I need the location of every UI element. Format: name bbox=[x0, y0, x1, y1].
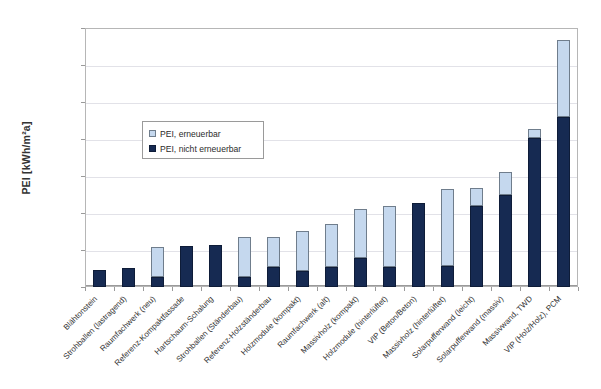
x-axis-label: Massivwand, TWD bbox=[480, 294, 533, 347]
legend-label-nicht-erneuerbar: PEI, nicht erneuerbar bbox=[160, 144, 241, 154]
x-axis-labels: BlähtonsteinStrohballen (lastragend)Raum… bbox=[0, 0, 601, 389]
x-axis-label: Raumfachwerk (neu) bbox=[98, 294, 157, 353]
chart-legend: PEI, erneuerbar PEI, nicht erneuerbar bbox=[142, 121, 264, 159]
legend-swatch-nicht-erneuerbar bbox=[149, 145, 156, 152]
x-axis-label: VIP (Holz/Holz), PCM bbox=[502, 294, 563, 355]
legend-item-nicht-erneuerbar: PEI, nicht erneuerbar bbox=[149, 141, 257, 156]
x-axis-label: Raumfachwerk (alt) bbox=[275, 294, 330, 349]
chart-container: PEI [kWh/m²a] 0.005.0010.0015.0020.0025.… bbox=[0, 0, 601, 389]
legend-swatch-erneuerbar bbox=[149, 130, 156, 137]
legend-item-erneuerbar: PEI, erneuerbar bbox=[149, 126, 257, 141]
legend-label-erneuerbar: PEI, erneuerbar bbox=[160, 129, 221, 139]
